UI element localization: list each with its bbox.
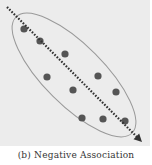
data-point	[78, 114, 85, 121]
data-point	[20, 25, 27, 32]
chart-caption: (b) Negative Association	[0, 150, 152, 160]
data-point	[99, 115, 106, 122]
data-point	[69, 86, 76, 93]
data-point	[43, 73, 50, 80]
chart-panel	[0, 0, 150, 146]
data-point	[94, 72, 101, 79]
cluster-ellipse	[0, 0, 150, 146]
data-point	[61, 50, 68, 57]
data-point	[112, 88, 119, 95]
scatter-plot	[0, 0, 150, 146]
